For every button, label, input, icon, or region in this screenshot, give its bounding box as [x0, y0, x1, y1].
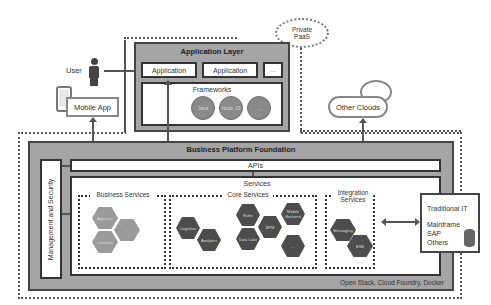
hex-cognitive-label: Cognitive — [180, 226, 197, 231]
hex-mobile-backend: Mobile Backend — [281, 203, 305, 225]
hex-cognitive: Cognitive — [176, 217, 200, 239]
other-clouds-label: Other Clouds — [336, 103, 380, 112]
arrow-up-mobile — [89, 117, 97, 122]
platform-to-traditional-it-arrow — [385, 221, 418, 223]
app-box-more-label: ... — [270, 67, 275, 73]
private-paas-line1: Private — [292, 26, 312, 33]
hex-messaging-label: Messaging — [333, 228, 352, 233]
core-services-title: Core Services — [223, 191, 273, 198]
hex-approval: Approval — [92, 207, 118, 229]
management-security-box: Management and Security — [40, 159, 62, 279]
hex-bpm-label: BPM — [266, 225, 275, 230]
hex-esb-label: ESB — [356, 244, 364, 249]
app-box-more[interactable]: ... — [263, 62, 283, 78]
user-icon — [88, 58, 100, 86]
private-paas-left-edge — [124, 37, 126, 133]
arrow-up-clouds — [359, 118, 367, 123]
business-services-group: Business Services Approval ... Calendar — [78, 195, 166, 269]
traditional-it-others: Others — [427, 239, 448, 246]
hex-bpm: BPM — [258, 216, 282, 238]
hex-analytics-label: Analytics — [201, 238, 217, 243]
framework-nodejs-label: Node JS — [221, 105, 240, 111]
traditional-it-title: Traditional IT — [427, 205, 468, 212]
traditional-it-mainframe: Mainframe — [427, 221, 460, 228]
hex-calendar-label: Calendar — [97, 240, 113, 245]
traditional-it-sap: SAP — [427, 230, 441, 237]
hex-core-more-label: ... — [291, 244, 294, 249]
private-paas-boundary-right — [300, 45, 302, 133]
business-services-title: Business Services — [90, 191, 156, 198]
hex-core-more: ... — [281, 235, 305, 257]
hex-approval-label: Approval — [97, 216, 113, 221]
database-icon — [464, 229, 475, 247]
user-label: User — [66, 66, 82, 75]
services-title: Services — [232, 180, 282, 187]
hex-data-lake-label: Data Lake — [239, 237, 257, 242]
hex-mobile-backend-label: Mobile Backend — [281, 209, 305, 219]
application-layer: Application Layer Application Applicatio… — [134, 42, 290, 132]
framework-java: Java — [191, 96, 215, 120]
mobile-app-label: Mobile App — [74, 103, 111, 112]
app-box-1-label: Application — [152, 67, 186, 74]
hex-analytics: Analytics — [197, 229, 221, 251]
arrow-up-app — [164, 80, 172, 85]
frameworks-title: Frameworks — [143, 86, 281, 93]
apis-label: APIs — [248, 162, 263, 169]
management-security-label: Management and Security — [48, 178, 55, 260]
app-box-2-label: Application — [213, 67, 247, 74]
core-services-group: Core Services Cognitive Analytics Rules … — [169, 195, 317, 269]
integration-services-group: Integration Services Messaging ESB — [325, 195, 375, 269]
traditional-it-box: Traditional IT Mainframe SAP Others — [420, 193, 480, 253]
hex-calendar: Calendar — [92, 231, 118, 253]
apis-bar: APIs — [70, 159, 441, 172]
hex-rules: Rules — [236, 204, 260, 226]
app-box-1[interactable]: Application — [141, 62, 197, 78]
mgmt-to-apis-connector — [62, 165, 70, 167]
frameworks-box: Frameworks Java Node JS ... — [141, 82, 283, 126]
services-box: Services Business Services Approval ... … — [70, 176, 441, 276]
hex-business-more: ... — [114, 219, 140, 241]
app-box-2[interactable]: Application — [202, 62, 258, 78]
hex-data-lake: Data Lake — [236, 228, 260, 250]
framework-more: ... — [247, 96, 271, 120]
private-paas-line2: PaaS — [294, 33, 310, 40]
arrow-left-traditional — [381, 218, 386, 226]
framework-more-label: ... — [257, 105, 261, 111]
application-layer-title: Application Layer — [136, 47, 288, 56]
framework-java-label: Java — [198, 105, 209, 111]
framework-nodejs: Node JS — [219, 96, 243, 120]
hex-rules-label: Rules — [243, 213, 253, 218]
platform-footer: Open Stack, Cloud Foundry, Docker — [340, 279, 444, 286]
business-platform-title: Business Platform Foundation — [30, 145, 452, 154]
hex-business-more-label: ... — [125, 228, 128, 233]
business-platform-foundation: Business Platform Foundation Management … — [28, 141, 454, 291]
integration-services-title: Integration Services — [333, 189, 373, 203]
mobile-app-box[interactable]: Mobile App — [66, 97, 119, 117]
integration-title-line1: Integration — [338, 189, 369, 196]
integration-title-line2: Services — [341, 196, 366, 203]
mgmt-to-services-connector — [62, 213, 70, 215]
other-clouds: Other Clouds — [328, 96, 388, 118]
